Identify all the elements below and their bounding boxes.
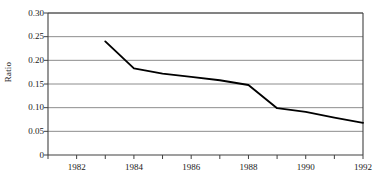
x-tick-label: 1984 [114,163,154,172]
x-tick-label: 1988 [228,163,268,172]
y-axis-ticks [44,13,48,155]
line-chart: Ratio 0.300.250.200.150.100.050 19821984… [0,0,373,183]
x-tick-label: 1986 [171,163,211,172]
data-series-line [105,41,363,122]
x-tick-label: 1992 [343,163,373,172]
x-axis-ticks [48,155,363,159]
x-tick-label: 1990 [286,163,326,172]
x-tick-label: 1982 [57,163,97,172]
plot-area [0,0,373,183]
